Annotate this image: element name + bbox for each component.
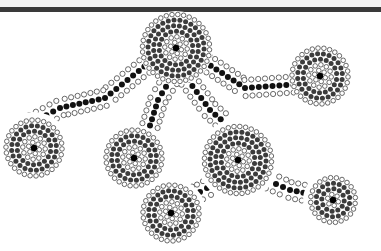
node-ring-dot — [313, 184, 318, 189]
node-ring-dot — [143, 221, 148, 226]
node-fill-dot — [177, 18, 182, 23]
node-fill-dot — [233, 135, 238, 140]
node-ring-dot — [318, 180, 323, 185]
node-ring-dot — [133, 145, 138, 150]
node-ring-dot — [310, 47, 315, 52]
node-fill-dot — [331, 181, 336, 186]
node-ring-dot — [256, 185, 261, 190]
node-ring-dot — [189, 76, 194, 81]
node-fill-dot — [230, 142, 235, 147]
path-ring-dot — [269, 75, 274, 80]
node-ring-dot — [207, 48, 212, 53]
node-fill-dot — [245, 131, 250, 136]
node-fill-dot — [227, 137, 232, 142]
path-ring-dot — [202, 113, 207, 118]
node-fill-dot — [23, 125, 28, 130]
node-fill-dot — [163, 195, 168, 200]
node-ring-dot — [263, 138, 268, 143]
node-ring-dot — [125, 165, 130, 170]
node-ring-dot — [300, 52, 305, 57]
path-ring-dot — [113, 97, 118, 102]
node-fill-dot — [54, 149, 59, 154]
node-fill-dot — [246, 171, 251, 176]
node-ring-dot — [268, 148, 273, 153]
path-ring-dot — [221, 81, 226, 86]
node-fill-dot — [141, 135, 146, 140]
node-fill-dot — [138, 140, 143, 145]
node-fill-dot — [109, 158, 114, 163]
node-fill-dot — [178, 190, 183, 195]
node-fill-dot — [157, 48, 162, 53]
node-fill-dot — [148, 202, 153, 207]
path-ring-dot — [130, 84, 135, 89]
node-fill-dot — [247, 145, 252, 150]
node-fill-dot — [235, 174, 240, 179]
node-fill-dot — [187, 70, 192, 75]
node-ring-dot — [114, 134, 119, 139]
node-center-dot — [131, 155, 137, 161]
node-fill-dot — [158, 197, 163, 202]
node-fill-dot — [183, 219, 188, 224]
node-ring-dot — [173, 57, 178, 62]
node-fill-dot — [183, 193, 188, 198]
node-ring-dot — [231, 148, 236, 153]
node-fill-dot — [34, 168, 39, 173]
node-fill-dot — [330, 214, 335, 219]
path-ring-dot — [120, 71, 125, 76]
node-fill-dot — [194, 55, 199, 60]
node-ring-dot — [175, 202, 180, 207]
node-ring-dot — [269, 154, 274, 159]
node-ring-dot — [36, 142, 41, 147]
node-ring-dot — [14, 124, 19, 129]
node-ring-dot — [197, 212, 202, 217]
node-fill-dot — [321, 51, 326, 56]
path-ring-dot — [286, 195, 291, 200]
node-ring-dot — [229, 167, 234, 172]
path-ring-dot — [196, 79, 201, 84]
node-fill-dot — [17, 137, 22, 142]
node-fill-dot — [152, 165, 157, 170]
node-ring-dot — [145, 180, 150, 185]
path-ring-dot — [119, 93, 124, 98]
path-ring-dot — [283, 74, 288, 79]
node-ring-dot — [176, 12, 181, 17]
node-fill-dot — [201, 52, 206, 57]
node-fill-dot — [146, 148, 151, 153]
node-fill-dot — [332, 66, 337, 71]
node-fill-dot — [152, 147, 157, 152]
node-fill-dot — [134, 178, 139, 183]
node-fill-dot — [120, 168, 125, 173]
node-ring-dot — [128, 160, 133, 165]
node-fill-dot — [132, 139, 137, 144]
node-fill-dot — [336, 60, 341, 65]
node-fill-dot — [146, 213, 151, 218]
node-ring-dot — [175, 51, 180, 56]
path-ring-dot — [136, 79, 141, 84]
node-fill-dot — [263, 153, 268, 158]
node-fill-dot — [218, 136, 223, 141]
node-fill-dot — [258, 155, 263, 160]
path-ring-dot — [148, 95, 153, 100]
path-ring-dot — [124, 88, 129, 93]
path-ring-dot — [69, 95, 74, 100]
node-ring-dot — [241, 159, 246, 164]
node-ring-dot — [324, 65, 329, 70]
node-fill-dot — [170, 68, 175, 73]
node-ring-dot — [7, 134, 12, 139]
right-lower-circle — [303, 170, 363, 230]
node-fill-dot — [319, 197, 324, 202]
node-ring-dot — [26, 144, 31, 149]
node-ring-dot — [174, 221, 179, 226]
node-ring-dot — [201, 26, 206, 31]
node-ring-dot — [165, 238, 170, 243]
node-ring-dot — [311, 83, 316, 88]
node-fill-dot — [249, 176, 254, 181]
node-ring-dot — [340, 91, 345, 96]
node-fill-dot — [336, 213, 341, 218]
node-ring-dot — [131, 167, 136, 172]
node-fill-dot — [117, 164, 122, 169]
path-ring-dot — [91, 106, 96, 111]
path-ring-dot — [215, 77, 220, 82]
node-ring-dot — [109, 171, 114, 176]
node-fill-dot — [334, 71, 339, 76]
